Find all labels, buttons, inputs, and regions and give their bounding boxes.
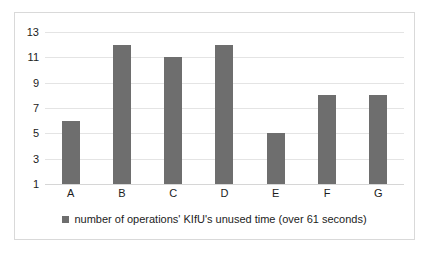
y-axis-tick-label: 13 (27, 27, 39, 38)
plot-area: 135791113 (45, 32, 404, 184)
y-axis-tick-label: 11 (28, 52, 39, 63)
y-axis-tick-label: 5 (33, 128, 39, 139)
y-axis-tick-label: 9 (33, 77, 39, 88)
bar-slot (301, 32, 352, 184)
x-axis-tick-label: A (67, 186, 74, 200)
bar-series (45, 32, 404, 184)
bar (113, 45, 131, 184)
bar (164, 57, 182, 184)
x-axis-tick-label: F (324, 186, 331, 200)
y-axis-tick-label: 7 (33, 103, 39, 114)
bar-slot (250, 32, 301, 184)
y-axis-tick-label: 3 (33, 153, 39, 164)
x-axis-tick-label: E (272, 186, 279, 200)
bar-slot (199, 32, 250, 184)
x-axis-tick-labels: ABCDEFG (45, 186, 404, 204)
y-axis-tick-label: 1 (33, 179, 39, 190)
x-axis-tick-label: C (169, 186, 177, 200)
gridline (45, 184, 404, 185)
x-axis-tick-label: G (374, 186, 383, 200)
legend-color-swatch (62, 216, 69, 223)
bar (267, 133, 285, 184)
bar (215, 45, 233, 184)
bar-slot (148, 32, 199, 184)
legend-item-label: number of operations' KIfU's unused time… (74, 213, 366, 226)
bar-slot (45, 32, 96, 184)
bar (318, 95, 336, 184)
bar (62, 121, 80, 184)
bar-slot (353, 32, 404, 184)
chart-legend: number of operations' KIfU's unused time… (15, 213, 414, 226)
x-axis-tick-label: B (118, 186, 125, 200)
chart-container: 135791113 ABCDEFG number of operations' … (14, 12, 415, 240)
bar (369, 95, 387, 184)
bar-slot (96, 32, 147, 184)
x-axis-tick-label: D (221, 186, 229, 200)
